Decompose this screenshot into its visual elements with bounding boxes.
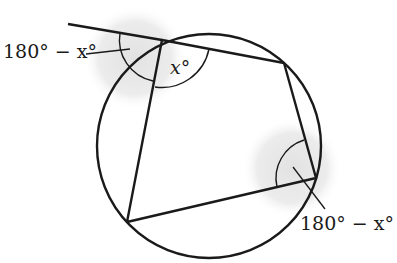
exterior-angle-label: 180° − x° <box>3 42 97 61</box>
opposite-angle-label: 180° − x° <box>300 214 394 233</box>
diagram-canvas: 180° − x° x° 180° − x° <box>0 0 397 263</box>
interior-angle-label: x° <box>170 58 190 77</box>
opposite-angle-shade <box>242 118 342 218</box>
